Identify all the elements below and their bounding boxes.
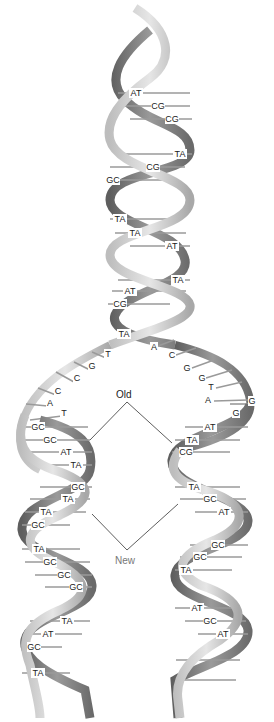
fork-junction-pair: TA: [119, 329, 130, 339]
parent-helix: [108, 8, 192, 345]
parent-base-pair: CG: [146, 162, 160, 172]
left-daughter-base-pair: TA: [41, 507, 52, 517]
parent-base-pair: GC: [106, 175, 120, 185]
right-daughter-base-pair: GC: [211, 540, 225, 550]
parent-base-pair: CG: [151, 101, 165, 111]
parent-base-pair: TA: [115, 214, 126, 224]
fork-left-base: T: [61, 408, 67, 418]
fork-right-base: A: [205, 395, 211, 405]
left-daughter-base-pair: GC: [31, 520, 45, 530]
fork-left-base: C: [55, 386, 62, 396]
left-daughter-base-pair: AT: [61, 447, 72, 457]
parent-base-pair: AT: [131, 88, 142, 98]
left-daughter-base-pair: TA: [33, 668, 44, 678]
right-daughter-base-pair: AT: [218, 629, 229, 639]
fork-right-base: T: [208, 382, 214, 392]
right-daughter-base-pair: AT: [205, 422, 216, 432]
parent-base-pair: CG: [113, 299, 127, 309]
parent-base-pair: TA: [130, 228, 141, 238]
left-daughter-base-pair: TA: [62, 616, 73, 626]
fork-left-base: C: [74, 373, 81, 383]
parent-base-pair: AT: [167, 241, 178, 251]
fork-right-base: G: [183, 363, 190, 373]
right-daughter-base-pair: GC: [203, 616, 217, 626]
new-label: New: [115, 555, 136, 566]
parent-base-pair: TA: [173, 275, 184, 285]
fork-right-base: G: [232, 408, 239, 418]
left-daughter-base-pair: GC: [43, 435, 57, 445]
old-label: Old: [116, 389, 132, 400]
right-daughter-base-pair: CG: [179, 447, 193, 457]
left-daughter-base-pair: GC: [27, 642, 41, 652]
old-leader-line: [90, 402, 172, 443]
right-daughter-base-pair: GC: [203, 494, 217, 504]
new-leader-line: [92, 504, 178, 550]
fork-right-base: A: [151, 342, 157, 352]
fork-left-base: A: [47, 398, 53, 408]
left-daughter-base-pair: TA: [34, 544, 45, 554]
left-daughter-base-pair: GC: [71, 482, 85, 492]
left-daughter-base-pair: GC: [43, 557, 57, 567]
replication-fork: [20, 340, 250, 470]
fork-right-base: C: [169, 350, 176, 360]
parent-base-pair: AT: [125, 286, 136, 296]
parent-base-pair: CG: [165, 114, 179, 124]
old-new-leaders: [90, 402, 178, 550]
fork-left-base: T: [105, 349, 111, 359]
left-daughter-base-pair: TA: [71, 460, 82, 470]
left-daughter-base-pair: GC: [31, 422, 45, 432]
right-daughter-base-pair: TA: [187, 435, 198, 445]
left-daughter-base-pair: AT: [43, 629, 54, 639]
left-daughter-base-pair: GC: [57, 570, 71, 580]
fork-right-base: G: [198, 373, 205, 383]
right-daughter-base-pair: AT: [192, 603, 203, 613]
right-daughter-base-pair: AT: [219, 507, 230, 517]
left-daughter-base-pair: GC: [69, 582, 83, 592]
left-daughter-base-pair: TA: [63, 494, 74, 504]
fork-left-base: G: [88, 361, 95, 371]
parent-base-pair: TA: [175, 149, 186, 159]
right-daughter-base-pair: TA: [181, 565, 192, 575]
right-daughter-base-pair: GC: [193, 552, 207, 562]
right-daughter-base-pair: TA: [189, 482, 200, 492]
dna-replication-diagram: Old New ATCGCGTACGGCTATAATTAATCGTATGCCAT…: [0, 0, 274, 722]
fork-right-base: G: [248, 396, 255, 406]
